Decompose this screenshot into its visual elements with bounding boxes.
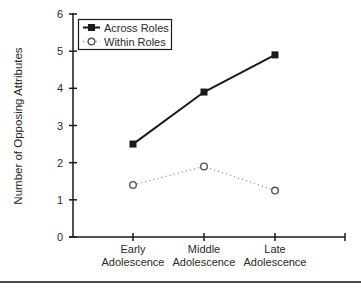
y-tick-label: 0 xyxy=(57,231,63,243)
figure-page: 0123456EarlyAdolescenceMiddleAdolescence… xyxy=(0,0,361,289)
data-point-open-circle xyxy=(272,187,279,194)
page-divider-rule xyxy=(0,281,361,283)
y-tick-label: 6 xyxy=(57,8,63,20)
data-point-filled-square xyxy=(130,141,137,148)
y-axis-title: Number of Opposing Attributes xyxy=(12,47,24,204)
legend-open-circle-icon xyxy=(88,38,95,45)
legend-filled-square-icon xyxy=(88,24,95,31)
y-tick-label: 4 xyxy=(57,82,63,94)
data-point-filled-square xyxy=(272,51,279,58)
data-point-filled-square xyxy=(201,89,208,96)
y-tick-label: 1 xyxy=(57,194,63,206)
legend-label: Within Roles xyxy=(104,36,166,48)
y-tick-label: 5 xyxy=(57,45,63,57)
y-tick-label: 2 xyxy=(57,157,63,169)
x-tick-label: EarlyAdolescence xyxy=(102,243,165,268)
y-tick-label: 3 xyxy=(57,120,63,132)
data-point-open-circle xyxy=(201,163,208,170)
data-point-open-circle xyxy=(130,182,137,189)
legend-label: Across Roles xyxy=(104,22,169,34)
x-tick-label: MiddleAdolescence xyxy=(173,243,236,268)
opposing-attributes-line-chart: 0123456EarlyAdolescenceMiddleAdolescence… xyxy=(0,0,361,280)
x-tick-label: LateAdolescence xyxy=(244,243,307,268)
series-line-across-roles xyxy=(133,55,275,144)
